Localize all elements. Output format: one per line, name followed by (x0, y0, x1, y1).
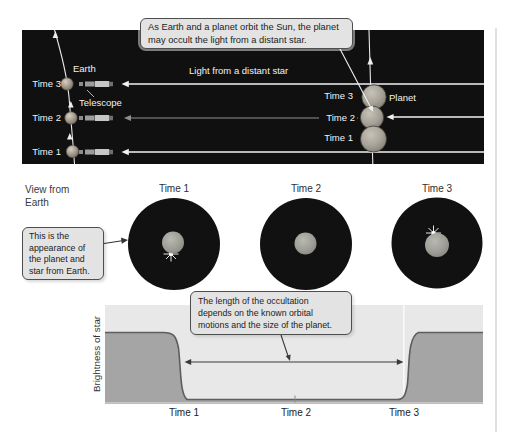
earth-time3-label: Time 3 (27, 78, 61, 89)
telescope-label: Telescope (79, 97, 122, 108)
x-tick-time2: Time 2 (266, 407, 326, 418)
planet-disk (425, 233, 449, 257)
earth-label: Earth (73, 63, 96, 74)
view-callout-pointer (104, 238, 128, 244)
planet-disk (162, 232, 184, 254)
y-axis-label: Brightness of star (91, 316, 102, 392)
light-ray-label: Light from a distant star (189, 65, 288, 76)
x-tick-time1: Time 1 (154, 407, 214, 418)
view-circle-time3 (392, 198, 483, 289)
x-tick-time3: Time 3 (374, 407, 434, 418)
figure-occultation-diagram: Earth Telescope Planet Light from a dist… (0, 0, 508, 447)
view-time1-label: Time 1 (144, 183, 204, 194)
appearance-callout: This is the appearance of the planet and… (22, 227, 104, 280)
arrow-right-icon (121, 238, 128, 244)
planet-time1-label: Time 1 (319, 132, 353, 143)
star-icon (164, 247, 179, 262)
planet-label: Planet (389, 92, 416, 103)
view-circle-time2 (260, 198, 352, 290)
earth-time1-label: Time 1 (27, 146, 61, 157)
view-time3-label: Time 3 (407, 183, 467, 194)
page-edge-line (495, 28, 497, 432)
view-circle-time1 (128, 198, 220, 290)
orbit-callout: As Earth and a planet orbit the Sun, the… (140, 18, 353, 49)
occultation-length-callout: The length of the occultation depends on… (190, 291, 352, 335)
planet-disk (295, 233, 317, 255)
view-time2-label: Time 2 (276, 183, 336, 194)
planet-time3-label: Time 3 (319, 90, 353, 101)
view-from-earth-heading: View from Earth (25, 183, 69, 209)
planet-time2-label: Time 2 (319, 112, 357, 123)
star-icon (426, 226, 441, 241)
earth-time2-label: Time 2 (27, 112, 61, 123)
